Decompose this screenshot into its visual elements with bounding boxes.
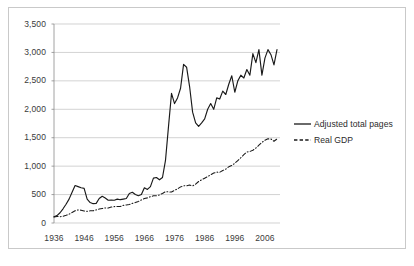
- series-line-real-gdp: [54, 139, 277, 217]
- data-series-group: [54, 50, 277, 217]
- y-tick-label-3500: 3,500: [6, 19, 46, 29]
- y-tick-label-1500: 1,500: [6, 132, 46, 142]
- legend-swatch-group: [294, 124, 311, 140]
- legend-label-real-gdp: Real GDP: [314, 135, 353, 145]
- y-tick-label-0: 0: [6, 218, 46, 228]
- gridlines-group: [54, 24, 280, 223]
- x-tick-label-2006: 2006: [248, 233, 282, 243]
- x-tick-label-1936: 1936: [37, 233, 71, 243]
- x-tick-label-1996: 1996: [218, 233, 252, 243]
- y-tick-label-500: 500: [6, 189, 46, 199]
- x-tick-label-1946: 1946: [67, 233, 101, 243]
- y-tick-label-2500: 2,500: [6, 75, 46, 85]
- x-tick-label-1956: 1956: [97, 233, 131, 243]
- x-tick-label-1976: 1976: [158, 233, 192, 243]
- series-line-adjusted-total-pages: [54, 50, 277, 217]
- legend-label-adjusted-total-pages: Adjusted total pages: [314, 119, 393, 129]
- axis-lines-group: [52, 24, 55, 223]
- chart-figure: 05001,0001,5002,0002,5003,0003,500 19361…: [0, 0, 414, 266]
- y-tick-label-2000: 2,000: [6, 104, 46, 114]
- x-tick-label-1986: 1986: [188, 233, 222, 243]
- chart-plot-svg: [0, 0, 414, 266]
- x-tick-label-1966: 1966: [127, 233, 161, 243]
- y-tick-label-1000: 1,000: [6, 161, 46, 171]
- y-tick-label-3000: 3,000: [6, 47, 46, 57]
